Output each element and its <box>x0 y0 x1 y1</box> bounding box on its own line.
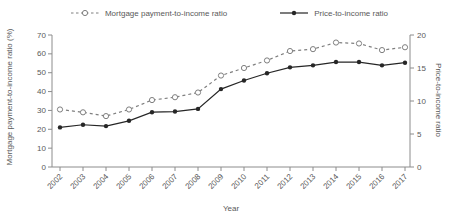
x-axis-title: Year <box>223 204 239 213</box>
series-0-marker <box>287 48 292 53</box>
series-0-marker <box>57 107 62 112</box>
left-axis-tick-label: 10 <box>37 144 46 153</box>
series-1-marker <box>219 87 223 91</box>
right-axis-tick-label: 10 <box>417 97 426 106</box>
x-axis-tick-label: 2011 <box>253 172 272 191</box>
x-axis-tick-label: 2015 <box>344 172 363 191</box>
right-axis-tick-label: 15 <box>417 64 426 73</box>
left-axis-tick-label: 50 <box>37 68 46 77</box>
series-1-marker <box>380 63 384 67</box>
series-0-marker <box>172 95 177 100</box>
x-axis-tick-label: 2004 <box>91 172 110 191</box>
series-1-marker <box>288 65 292 69</box>
x-axis-tick-label: 2003 <box>68 172 87 191</box>
left-axis-tick-label: 0 <box>42 163 47 172</box>
left-axis-tick-label: 30 <box>37 106 46 115</box>
x-axis-tick-label: 2012 <box>275 172 294 191</box>
x-axis-tick-label: 2014 <box>321 172 340 191</box>
right-axis-tick-label: 5 <box>417 130 422 139</box>
series-0-marker <box>241 65 246 70</box>
series-0-marker <box>195 90 200 95</box>
x-axis-tick-label: 2010 <box>229 172 248 191</box>
series-1-marker <box>150 110 154 114</box>
x-axis-tick-label: 2008 <box>183 172 202 191</box>
series-0-marker <box>379 47 384 52</box>
series-1-marker <box>58 125 62 129</box>
left-axis-tick-label: 70 <box>37 31 46 40</box>
series-0-marker <box>402 45 407 50</box>
x-axis-tick-label: 2002 <box>45 172 64 191</box>
x-axis-tick-label: 2009 <box>206 172 225 191</box>
x-axis-tick-label: 2013 <box>298 172 317 191</box>
series-0-marker <box>310 47 315 52</box>
x-axis-tick-label: 2017 <box>390 172 409 191</box>
series-0-marker <box>218 73 223 78</box>
series-1-marker <box>265 71 269 75</box>
series-1-marker <box>242 78 246 82</box>
series-0-marker <box>333 40 338 45</box>
left-y-axis-title: Mortgage payment-to-income ratio (%) <box>5 29 14 166</box>
x-axis-tick-label: 2005 <box>114 172 133 191</box>
x-axis-tick-label: 2016 <box>367 172 386 191</box>
series-1-marker <box>127 119 131 123</box>
series-0-marker <box>264 58 269 63</box>
series-1-marker <box>311 63 315 67</box>
series-1-marker <box>104 124 108 128</box>
chart-figure: Mortgage payment-to-income ratio Price-t… <box>0 0 458 221</box>
series-1-marker <box>334 60 338 64</box>
series-1-marker <box>173 109 177 113</box>
chart-plot-svg: 0102030405060700510152020022003200420052… <box>0 0 458 221</box>
left-axis-tick-label: 40 <box>37 87 46 96</box>
right-y-axis-title: Price-to-income ratio <box>434 63 443 137</box>
right-axis-tick-label: 0 <box>417 163 422 172</box>
series-0-marker <box>149 97 154 102</box>
series-1-marker <box>403 61 407 65</box>
x-axis-tick-label: 2007 <box>160 172 179 191</box>
series-1-marker <box>357 60 361 64</box>
series-0-marker <box>356 41 361 46</box>
series-1-marker <box>196 107 200 111</box>
series-1-marker <box>81 123 85 127</box>
x-axis-tick-label: 2006 <box>137 172 156 191</box>
left-axis-tick-label: 60 <box>37 49 46 58</box>
series-0-marker <box>103 113 108 118</box>
series-0-marker <box>80 110 85 115</box>
series-0-marker <box>126 107 131 112</box>
left-axis-tick-label: 20 <box>37 125 46 134</box>
series-line-0 <box>60 43 405 117</box>
right-axis-tick-label: 20 <box>417 31 426 40</box>
